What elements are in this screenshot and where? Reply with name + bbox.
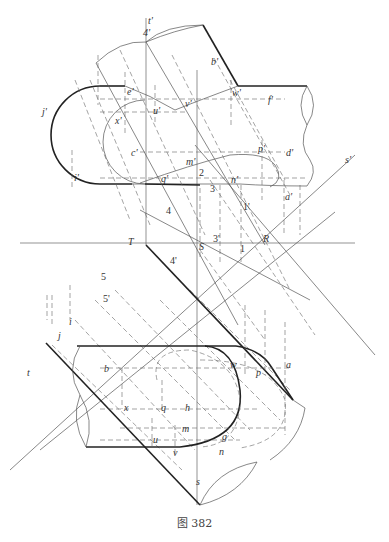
incl-bottom-end	[270, 400, 305, 460]
label-n: n	[219, 446, 224, 457]
label-x-prime: x'	[114, 115, 122, 126]
label-c-prime: c'	[131, 147, 138, 158]
label-m-prime: m'	[186, 156, 196, 167]
label-5-prime: 5'	[103, 293, 110, 304]
hcyl-break-2	[76, 395, 86, 447]
label-w: w	[230, 359, 237, 370]
incl-end-ellipse	[146, 25, 203, 42]
label-b: b	[104, 363, 109, 374]
label-q: q	[161, 402, 166, 413]
label-5: 5	[101, 271, 106, 282]
label-u: u	[153, 434, 158, 445]
break-symbol-bottom	[303, 125, 313, 186]
label-T: T	[128, 236, 135, 247]
label-4: 4	[166, 205, 171, 216]
trace-lower	[40, 212, 335, 450]
label-1: 1	[240, 243, 245, 254]
label-b-prime: b'	[211, 56, 219, 67]
label-j: j	[56, 330, 61, 341]
label-S: S	[199, 241, 204, 252]
label-s-prime: s'	[345, 154, 352, 165]
label-3-prime: 3'	[213, 233, 220, 244]
label-t: t	[27, 367, 30, 378]
label-u-prime: u'	[153, 105, 161, 116]
label-v-prime: v'	[185, 98, 192, 109]
label-x: x	[123, 402, 129, 413]
label-p-prime: p'	[257, 143, 266, 154]
inclined-cylinder-top	[96, 25, 265, 325]
label-q-prime: q'	[161, 173, 169, 184]
label-n-prime: n'	[231, 174, 239, 185]
label-4-prime: 4'	[170, 255, 177, 266]
label-2: 2	[199, 167, 204, 178]
label-e-prime: e'	[127, 86, 134, 97]
incl-edge-left	[96, 63, 238, 325]
geometry-figure: t' 4' b' e' u' v' w' f' j' x' c' m' p' d…	[0, 0, 389, 542]
incl-bottom-edge-right	[146, 245, 293, 400]
label-R: R	[262, 233, 269, 244]
label-i: i	[69, 316, 72, 327]
label-s: s	[196, 476, 200, 487]
label-w-prime: w'	[232, 87, 242, 98]
label-t-prime: t'	[148, 15, 154, 26]
incl-bottom-end-ellipse	[200, 462, 257, 505]
label-a: a	[286, 359, 291, 370]
label-j-prime: j'	[40, 106, 48, 117]
hcyl-break	[73, 346, 90, 447]
label-d-prime: d'	[286, 147, 294, 158]
cyl-bottom-visible	[145, 184, 200, 185]
inclined-cylinder-bottom	[46, 245, 305, 505]
label-h: h	[185, 402, 190, 413]
incl-axis-4prime	[146, 42, 265, 245]
label-4-prime-top: 4'	[143, 27, 151, 38]
cyl-left-end	[51, 86, 132, 184]
break-symbol-top	[301, 86, 314, 125]
label-3: 3	[210, 183, 215, 194]
label-v: v	[173, 447, 178, 458]
label-a-prime: a'	[285, 191, 293, 202]
horizontal-cylinder-top	[51, 86, 313, 186]
label-f-prime: f'	[268, 94, 274, 105]
label-g: g	[222, 431, 227, 442]
label-1-prime: 1'	[243, 201, 250, 212]
label-i-prime: i'	[74, 172, 80, 183]
label-p: p	[255, 367, 261, 378]
incl-edge-right	[203, 25, 238, 86]
figure-caption: 图 382	[0, 514, 389, 530]
trace-aux	[140, 210, 310, 300]
label-m: m	[182, 423, 189, 434]
plane-traces	[10, 145, 375, 470]
